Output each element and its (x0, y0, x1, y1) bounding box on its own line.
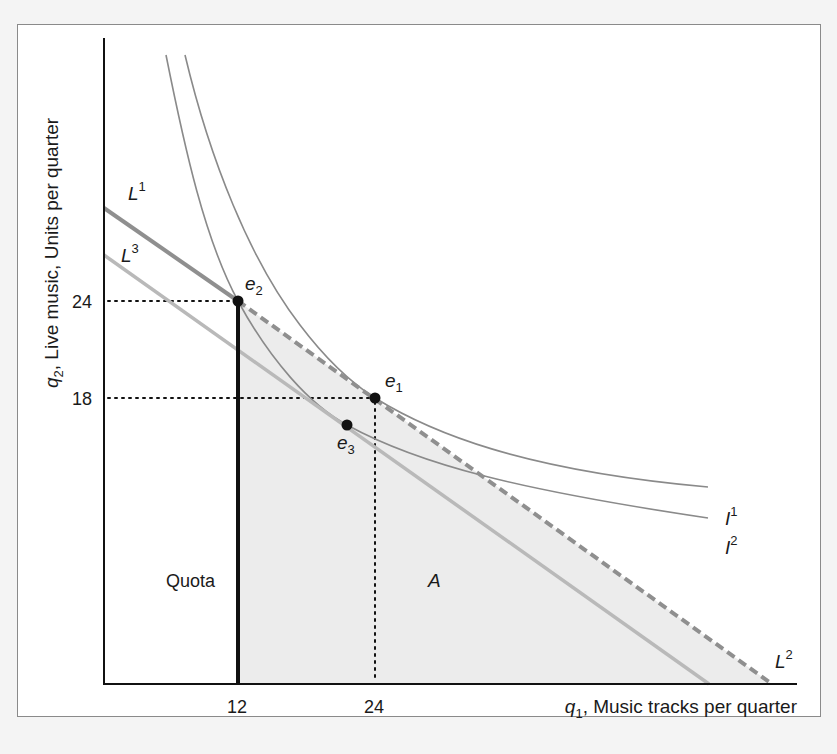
label-e1: e1 (385, 370, 403, 395)
label-e2: e2 (245, 273, 263, 298)
x-tick-24: 24 (364, 697, 384, 717)
label-area-a: A (427, 570, 441, 591)
point-e3 (342, 420, 353, 431)
label-i1: I1 (725, 504, 738, 529)
point-e1 (370, 393, 381, 404)
label-l2: L2 (775, 647, 793, 672)
y-axis-label: q2, Live music, Units per quarter (41, 117, 66, 388)
point-e2 (233, 296, 244, 307)
chart-canvas: q2, Live music, Units per quarter 24 18 … (0, 0, 837, 754)
label-l1: L1 (128, 179, 146, 204)
x-axis-label: q1, Music tracks per quarter (565, 696, 798, 721)
x-tick-12: 12 (227, 697, 247, 717)
label-l3: L3 (121, 241, 139, 266)
label-i2: I2 (725, 533, 738, 558)
y-tick-18: 18 (72, 389, 92, 409)
label-quota: Quota (166, 571, 216, 591)
y-tick-24: 24 (72, 292, 92, 312)
